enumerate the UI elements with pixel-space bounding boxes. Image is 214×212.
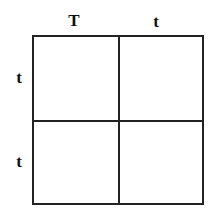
horizontal-divider: [34, 120, 202, 122]
row-header-2: t: [16, 153, 22, 170]
column-header-1: T: [68, 12, 79, 29]
row-header-1: t: [16, 69, 22, 86]
punnett-grid: [32, 35, 204, 205]
column-header-2: t: [153, 13, 159, 30]
